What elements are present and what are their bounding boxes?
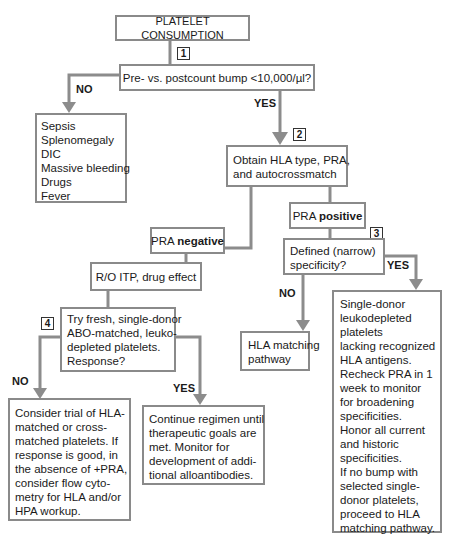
node-text-bold: positive xyxy=(319,209,362,223)
node-pra-positive: PRA positive xyxy=(289,202,366,229)
cause-item: Fever xyxy=(41,189,125,203)
node-single-donor-platelets: Single-donor leukodepleted platelets lac… xyxy=(332,290,442,533)
node-line: If no bump with xyxy=(340,465,440,479)
connector-obtain-negative xyxy=(224,186,251,248)
node-continue-regimen: Continue regimen until therapeutic goals… xyxy=(142,405,265,485)
cause-item: Sepsis xyxy=(41,119,125,133)
cause-item: DIC xyxy=(41,147,125,161)
node-line: development of addi- xyxy=(149,454,263,468)
node-line: Obtain HLA type, PRA, xyxy=(233,153,346,167)
node-line: depleted platelets. xyxy=(67,340,174,354)
node-line: specificity? xyxy=(290,258,383,272)
node-platelet-consumption: PLATELET CONSUMPTION xyxy=(115,15,250,41)
node-line: pathway xyxy=(248,352,308,366)
node-line: selected single- xyxy=(340,479,440,493)
node-line: Continue regimen until xyxy=(149,412,263,426)
node-try-fresh-platelets: Try fresh, single-donor ABO-matched, leu… xyxy=(60,307,176,372)
node-line: matching pathway. xyxy=(340,521,440,535)
node-rule-out-itp: R/O ITP, drug effect xyxy=(90,262,202,291)
node-line: Try fresh, single-donor xyxy=(67,312,174,326)
node-line: metry for HLA and/or xyxy=(15,490,129,504)
node-line: lacking recognized xyxy=(340,339,440,353)
node-line: response is good, in xyxy=(15,448,129,462)
node-hla-matching-pathway: HLA matching pathway xyxy=(240,331,310,371)
node-defined-specificity: Defined (narrow) specificity? xyxy=(283,238,385,275)
node-count-bump-question: Pre- vs. postcount bump <10,000/µl? xyxy=(119,64,315,91)
cause-item: Massive bleeding xyxy=(41,161,125,175)
step-number-1: 1 xyxy=(177,47,190,60)
node-line: Response? xyxy=(67,354,174,368)
node-line: donor platelets, xyxy=(340,493,440,507)
node-line: Recheck PRA in 1 xyxy=(340,367,440,381)
node-line: specificities. xyxy=(340,451,440,465)
node-line: HLA antigens. xyxy=(340,353,440,367)
node-line: proceed to HLA xyxy=(340,507,440,521)
arrowhead-q1-no xyxy=(62,102,76,113)
node-line: the absence of +PRA, xyxy=(15,462,129,476)
node-text-bold: negative xyxy=(177,234,224,248)
node-line: Consider trial of HLA- xyxy=(15,406,129,420)
connector-try-no xyxy=(40,337,60,390)
node-line: tional alloantibodies. xyxy=(149,468,263,482)
node-line: and historic xyxy=(340,437,440,451)
node-line: platelets xyxy=(340,325,440,339)
step-number-2: 2 xyxy=(293,128,306,141)
arrowhead-defined-no xyxy=(296,320,310,331)
node-line: Honor all current xyxy=(340,423,440,437)
node-text: Pre- vs. postcount bump <10,000/µl? xyxy=(123,71,312,85)
node-line: HLA matching xyxy=(248,338,308,352)
node-line: specificities. xyxy=(340,409,440,423)
node-line: Single-donor xyxy=(340,297,440,311)
node-text: R/O ITP, drug effect xyxy=(96,270,197,284)
node-obtain-hla: Obtain HLA type, PRA, and autocrossmatch xyxy=(226,145,348,187)
node-text-prefix: PRA xyxy=(293,209,319,223)
edge-label-no: NO xyxy=(279,287,296,299)
node-line: consider flow cyto- xyxy=(15,476,129,490)
node-line: matched platelets. If xyxy=(15,434,129,448)
node-line: and autocrossmatch xyxy=(233,167,346,181)
cause-item: Drugs xyxy=(41,175,125,189)
edge-label-no: NO xyxy=(12,375,29,387)
node-line: Defined (narrow) xyxy=(290,244,383,258)
node-pra-negative: PRA negative xyxy=(150,227,225,254)
arrowhead-try-yes xyxy=(193,394,207,405)
node-line: matched or cross- xyxy=(15,420,129,434)
node-line: met. Monitor for xyxy=(149,440,263,454)
node-text: PLATELET CONSUMPTION xyxy=(117,14,248,42)
step-number-4: 4 xyxy=(41,317,54,330)
node-line: for broadening xyxy=(340,395,440,409)
cause-item: Splenomegaly xyxy=(41,133,125,147)
edge-label-no: NO xyxy=(76,83,93,95)
edge-label-yes: YES xyxy=(173,382,195,394)
node-nonimmune-causes: Sepsis Splenomegaly DIC Massive bleeding… xyxy=(35,113,127,203)
arrowhead-defined-yes xyxy=(409,279,423,290)
node-consider-hla-matched: Consider trial of HLA- matched or cross-… xyxy=(8,398,131,521)
edge-label-yes: YES xyxy=(387,259,409,271)
node-line: ABO-matched, leuko- xyxy=(67,326,174,340)
node-line: HPA workup. xyxy=(15,504,129,518)
node-line: therapeutic goals are xyxy=(149,426,263,440)
node-text-prefix: PRA xyxy=(151,234,177,248)
node-line: week to monitor xyxy=(340,381,440,395)
edge-label-yes: YES xyxy=(254,97,276,109)
arrowhead-q1-yes xyxy=(272,132,288,145)
node-line: leukodepleted xyxy=(340,311,440,325)
